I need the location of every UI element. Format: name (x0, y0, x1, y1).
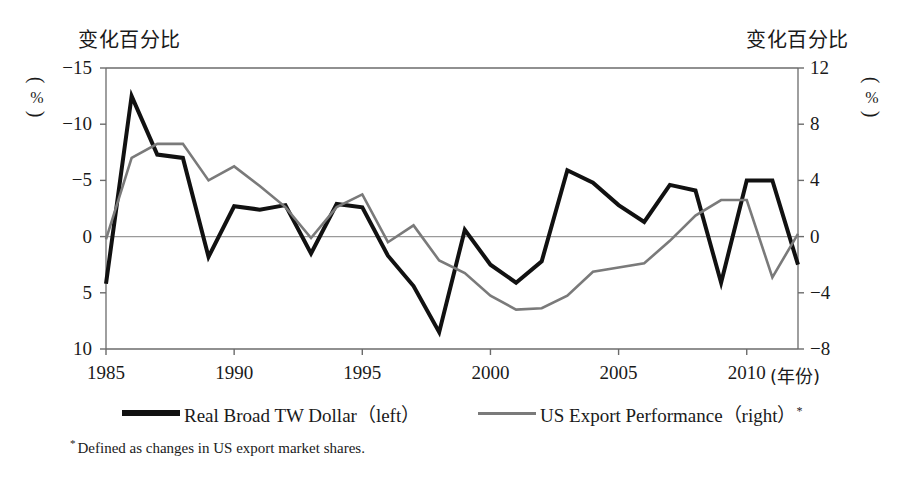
legend-label-export-text: US Export Performance (540, 405, 723, 426)
x-tick-label: 2000 (460, 363, 520, 382)
x-tick-label: 2010 (717, 363, 777, 382)
series-line-real-broad-tw-dollar (106, 96, 798, 332)
legend-label-dollar: Real Broad TW Dollar（left） (184, 400, 420, 427)
legend-label-export: US Export Performance（right）* (540, 400, 802, 427)
footnote-marker: * (70, 437, 76, 449)
left-tick-label: −5 (0, 170, 92, 189)
right-tick-label: 4 (810, 170, 820, 189)
left-tick-label: 5 (0, 283, 92, 302)
x-axis-unit-label: (年份) (770, 368, 820, 386)
footnote-text: Defined as changes in US export market s… (78, 440, 365, 456)
data-series (106, 96, 798, 332)
legend-label-export-side: （right） (723, 405, 797, 426)
x-tick-label: 1990 (204, 363, 264, 382)
left-tick-label: −15 (0, 58, 92, 77)
left-tick-label: −10 (0, 114, 92, 133)
legend-item-dollar[interactable]: Real Broad TW Dollar（left） (122, 396, 420, 430)
chart-figure: 变化百分比 变化百分比 ( % ) ( % ) −15−10−505101284… (0, 0, 912, 481)
x-tick-label: 2005 (589, 363, 649, 382)
plot-frame (106, 68, 798, 349)
right-tick-label: 0 (810, 227, 820, 246)
left-tick-label: 10 (0, 339, 92, 358)
legend-label-dollar-side: （left） (357, 405, 420, 426)
right-tick-label: −8 (810, 339, 830, 358)
x-tick-label: 1995 (332, 363, 392, 382)
x-tick-label: 1985 (76, 363, 136, 382)
right-tick-label: 12 (810, 58, 829, 77)
left-tick-label: 0 (0, 227, 92, 246)
legend-item-export[interactable]: US Export Performance（right）* (478, 396, 802, 430)
plot-area (0, 0, 912, 400)
legend-footnote-marker: * (796, 403, 802, 417)
axis-ticks (100, 68, 804, 355)
chart-footnote: *Defined as changes in US export market … (70, 437, 365, 457)
right-tick-label: 8 (810, 114, 820, 133)
right-tick-label: −4 (810, 283, 830, 302)
legend-line-icon-dollar (122, 410, 180, 416)
legend-line-icon-export (478, 412, 536, 415)
legend-label-dollar-text: Real Broad TW Dollar (184, 405, 357, 426)
chart-legend: Real Broad TW Dollar（left） US Export Per… (0, 396, 912, 430)
